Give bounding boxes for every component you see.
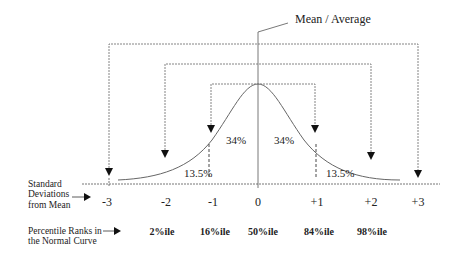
arrow-down-icon [161,150,169,158]
sd-tick: +3 [412,196,425,208]
percentile-tick: 16%ile [200,227,230,237]
area-label-left-13-5: 13.5% [184,168,212,179]
title-pointer [258,23,288,32]
arrow-right-icon [84,193,91,201]
area-label-right-34: 34% [274,135,294,146]
sd-tick: -2 [161,196,171,208]
percentile-axis-label: Percentile Ranks in the Normal Curve [28,226,102,247]
sd-tick: +1 [311,196,324,208]
sd-tick: -3 [102,196,112,208]
sd-tick: +2 [365,196,378,208]
sd-axis-label: Standard Deviations from Mean [28,179,70,210]
bell-curve [118,84,400,180]
percentile-tick: 2%ile [150,227,175,237]
area-label-left-34: 34% [226,135,246,146]
arrow-down-icon [207,125,215,133]
sd-tick: -1 [208,196,218,208]
arrow-down-icon [414,170,422,178]
area-label-right-13-5: 13.5% [326,168,354,179]
sd-tick: 0 [255,196,261,208]
arrow-down-icon [311,125,319,133]
arrow-right-icon [114,227,121,235]
percentile-tick: 98%ile [357,227,387,237]
percentile-tick: 50%ile [248,227,278,237]
arrow-down-icon [105,168,113,176]
mean-average-label: Mean / Average [295,13,371,25]
percentile-tick: 84%ile [304,227,334,237]
bracket-2sd [165,64,371,152]
bracket-3sd [109,44,418,170]
arrow-down-icon [367,152,375,160]
normal-curve-diagram [0,0,454,257]
